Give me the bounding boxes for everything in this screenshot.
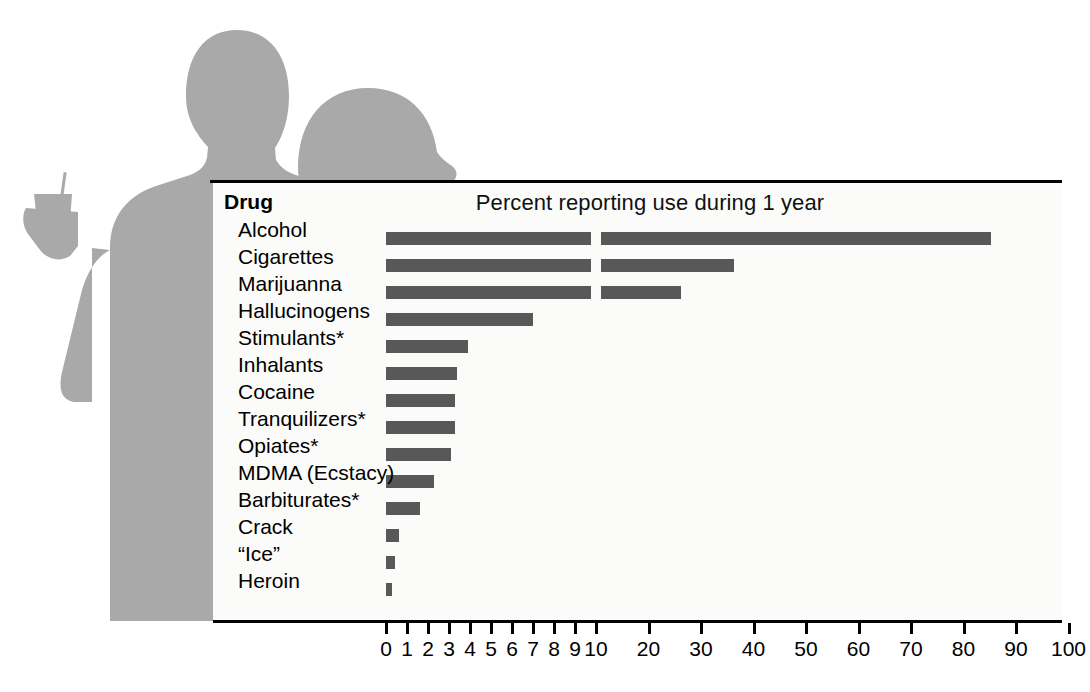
axis-tick bbox=[805, 623, 808, 634]
bar-row bbox=[0, 468, 1090, 495]
category-label: MDMA (Ecstacy) bbox=[238, 459, 394, 486]
category-label: Cigarettes bbox=[238, 243, 394, 270]
axis-tick bbox=[574, 623, 577, 634]
bar-row bbox=[0, 549, 1090, 576]
bar-row bbox=[0, 252, 1090, 279]
bar-segment bbox=[386, 367, 457, 380]
axis-tick-label: 80 bbox=[939, 637, 989, 661]
bar-segment bbox=[601, 259, 734, 272]
axis-tick-label: 40 bbox=[729, 637, 779, 661]
category-label: Barbiturates* bbox=[238, 486, 394, 513]
bar-row bbox=[0, 576, 1090, 603]
axis-tick bbox=[448, 623, 451, 634]
bar-row bbox=[0, 441, 1090, 468]
axis-tick bbox=[1068, 623, 1071, 634]
category-label: Crack bbox=[238, 513, 394, 540]
category-label: Cocaine bbox=[238, 378, 394, 405]
category-header: Drug bbox=[224, 190, 273, 214]
axis-tick-label: 10 bbox=[571, 637, 621, 661]
category-label: Opiates* bbox=[238, 432, 394, 459]
bar-segment bbox=[601, 286, 681, 299]
axis-tick bbox=[963, 623, 966, 634]
chart-figure: Percent reporting use during 1 year Drug… bbox=[0, 0, 1090, 692]
category-label: Inhalants bbox=[238, 351, 394, 378]
bar-segment bbox=[386, 421, 455, 434]
bar-segment bbox=[386, 394, 455, 407]
category-label: Hallucinogens bbox=[238, 297, 394, 324]
bar-row bbox=[0, 495, 1090, 522]
bars-layer bbox=[0, 0, 1090, 692]
bar-segment bbox=[386, 286, 591, 299]
axis-tick bbox=[511, 623, 514, 634]
axis-tick bbox=[753, 623, 756, 634]
bar-row bbox=[0, 414, 1090, 441]
axis-tick-label: 100 bbox=[1044, 637, 1090, 661]
axis-tick bbox=[1015, 623, 1018, 634]
x-axis-line bbox=[213, 620, 1062, 623]
bar-row bbox=[0, 387, 1090, 414]
bar-row bbox=[0, 333, 1090, 360]
bar-row bbox=[0, 279, 1090, 306]
axis-tick bbox=[648, 623, 651, 634]
bar-segment bbox=[386, 340, 468, 353]
axis-tick bbox=[469, 623, 472, 634]
axis-tick bbox=[406, 623, 409, 634]
bar-row bbox=[0, 225, 1090, 252]
axis-tick bbox=[910, 623, 913, 634]
category-label: Alcohol bbox=[238, 216, 394, 243]
axis-tick-label: 30 bbox=[676, 637, 726, 661]
axis-tick-label: 90 bbox=[991, 637, 1041, 661]
category-label: Heroin bbox=[238, 567, 394, 594]
category-label-list: AlcoholCigarettesMarijuannaHallucinogens… bbox=[238, 216, 394, 594]
axis-tick bbox=[490, 623, 493, 634]
category-label: Marijuanna bbox=[238, 270, 394, 297]
axis-tick bbox=[595, 623, 598, 634]
category-label: “Ice” bbox=[238, 540, 394, 567]
axis-tick bbox=[385, 623, 388, 634]
category-label: Tranquilizers* bbox=[238, 405, 394, 432]
bar-segment bbox=[601, 232, 991, 245]
chart-title: Percent reporting use during 1 year bbox=[440, 190, 860, 216]
axis-tick-label: 20 bbox=[624, 637, 674, 661]
bar-row bbox=[0, 522, 1090, 549]
axis-tick bbox=[553, 623, 556, 634]
axis-tick bbox=[858, 623, 861, 634]
axis-tick-label: 70 bbox=[886, 637, 936, 661]
axis-tick bbox=[427, 623, 430, 634]
bar-row bbox=[0, 360, 1090, 387]
axis-tick-label: 60 bbox=[834, 637, 884, 661]
axis-tick bbox=[700, 623, 703, 634]
axis-tick bbox=[532, 623, 535, 634]
bar-segment bbox=[386, 232, 591, 245]
bar-segment bbox=[386, 448, 451, 461]
bar-segment bbox=[386, 259, 591, 272]
category-label: Stimulants* bbox=[238, 324, 394, 351]
axis-tick-label: 50 bbox=[781, 637, 831, 661]
bar-row bbox=[0, 306, 1090, 333]
bar-segment bbox=[386, 313, 533, 326]
